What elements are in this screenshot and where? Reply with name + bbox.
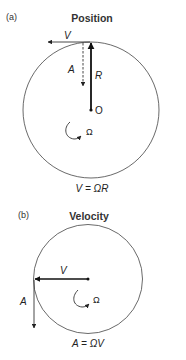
velocity-center-dot	[87, 278, 90, 281]
position-diagram	[23, 42, 159, 178]
velocity-label-b: V	[60, 266, 67, 276]
panel-b-tag: (b)	[18, 211, 29, 220]
panel-a-tag: (a)	[6, 13, 17, 22]
velocity-diagram	[34, 225, 143, 334]
panel-a-title: Position	[71, 13, 112, 24]
acceleration-label-a: A	[68, 65, 75, 75]
diagram-canvas	[0, 0, 186, 360]
omega-label-a: Ω	[86, 128, 93, 137]
equation-a: V = ΩR	[76, 184, 109, 194]
radius-label: R	[95, 71, 102, 81]
omega-label-b: Ω	[93, 296, 100, 305]
omega-rotation-arrow-b	[74, 290, 89, 307]
acceleration-label-b: A	[20, 297, 27, 307]
omega-rotation-arrow-a	[66, 122, 81, 139]
origin-dot	[89, 108, 92, 111]
origin-label: O	[95, 106, 103, 116]
equation-b: A = ΩV	[72, 339, 104, 349]
velocity-label-a: V	[64, 31, 71, 41]
panel-b-title: Velocity	[69, 211, 109, 222]
